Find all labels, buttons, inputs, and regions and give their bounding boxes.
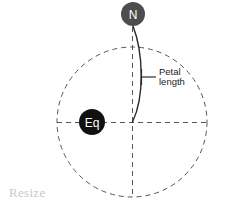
north-pole-label: N [129,8,138,22]
diagram-canvas: Petal length N Eq Resize [0,0,229,217]
sphere-petal-diagram: Petal length N Eq Resize [0,0,229,217]
petal-length-label-line2: length [159,76,185,87]
petal-arc [133,26,142,122]
equator-label: Eq [85,116,100,130]
resize-label[interactable]: Resize [9,185,45,200]
